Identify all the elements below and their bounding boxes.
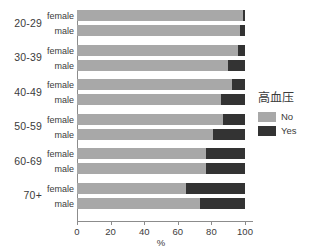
bar-row — [77, 163, 245, 174]
row-label-40-49-female: female — [32, 80, 74, 90]
row-label-60-69-male: male — [32, 164, 74, 174]
legend-label-yes: Yes — [281, 125, 297, 136]
legend-item-no[interactable]: No — [258, 111, 297, 122]
row-label-wrap: male — [30, 95, 74, 106]
bar-segment-no — [77, 79, 232, 90]
x-tick — [77, 221, 78, 225]
bar-row — [77, 183, 245, 194]
stacked-bar-chart: 20-29femalemale30-39femalemale40-49femal… — [0, 0, 312, 250]
bar-row — [77, 25, 245, 36]
legend-title: 高血压 — [258, 88, 297, 105]
bar-segment-yes — [213, 129, 245, 140]
x-tick — [144, 221, 145, 225]
bar-row — [77, 148, 245, 159]
bar-segment-no — [77, 148, 206, 159]
x-tick-label: 100 — [230, 226, 260, 237]
bar-row — [77, 45, 245, 56]
bar-segment-no — [77, 94, 221, 105]
x-axis-title: % — [77, 237, 245, 248]
bar-segment-yes — [240, 25, 245, 36]
legend-swatch-yes-icon — [258, 126, 276, 136]
row-label-20-29-male: male — [32, 26, 74, 36]
row-label-40-49-male: male — [32, 95, 74, 105]
x-tick-label: 80 — [196, 226, 226, 237]
x-tick-label: 20 — [96, 226, 126, 237]
bar-segment-no — [77, 163, 206, 174]
bar-row — [77, 79, 245, 90]
bar-segment-no — [77, 45, 238, 56]
row-label-30-39-female: female — [32, 46, 74, 56]
bar-row — [77, 60, 245, 71]
bar-row — [77, 10, 245, 21]
x-tick-label: 0 — [62, 226, 92, 237]
row-label-wrap: male — [30, 26, 74, 37]
bar-row — [77, 94, 245, 105]
row-label-60-69-female: female — [32, 149, 74, 159]
bar-segment-yes — [186, 183, 245, 194]
row-label-wrap: female — [30, 46, 74, 57]
row-label-70+-female: female — [32, 184, 74, 194]
bar-row — [77, 198, 245, 209]
row-label-50-59-female: female — [32, 115, 74, 125]
row-label-wrap: male — [30, 61, 74, 72]
row-label-wrap: male — [30, 164, 74, 175]
bar-segment-no — [77, 129, 213, 140]
row-label-wrap: male — [30, 130, 74, 141]
bar-segment-no — [77, 114, 223, 125]
bar-segment-yes — [200, 198, 245, 209]
bar-segment-yes — [206, 148, 245, 159]
row-label-20-29-female: female — [32, 11, 74, 21]
row-label-wrap: female — [30, 115, 74, 126]
row-label-wrap: female — [30, 11, 74, 22]
bar-segment-no — [77, 10, 243, 21]
x-axis-line — [77, 221, 253, 222]
row-label-wrap: female — [30, 149, 74, 160]
plot-area — [77, 10, 245, 221]
bar-segment-yes — [206, 163, 245, 174]
bar-segment-yes — [232, 79, 245, 90]
legend: 高血压 No Yes — [258, 88, 297, 139]
x-tick — [111, 221, 112, 225]
legend-swatch-no-icon — [258, 112, 276, 122]
bar-segment-no — [77, 60, 228, 71]
row-label-50-59-male: male — [32, 130, 74, 140]
x-tick-label: 60 — [163, 226, 193, 237]
bar-segment-no — [77, 25, 240, 36]
x-tick-label: 40 — [129, 226, 159, 237]
row-label-70+-male: male — [32, 199, 74, 209]
bar-segment-no — [77, 183, 186, 194]
legend-item-yes[interactable]: Yes — [258, 125, 297, 136]
bar-segment-yes — [228, 60, 245, 71]
x-tick — [245, 221, 246, 225]
bar-row — [77, 114, 245, 125]
row-label-wrap: male — [30, 199, 74, 210]
row-label-30-39-male: male — [32, 61, 74, 71]
x-tick — [211, 221, 212, 225]
bar-row — [77, 129, 245, 140]
bar-segment-yes — [238, 45, 245, 56]
legend-label-no: No — [281, 111, 293, 122]
bar-segment-yes — [223, 114, 245, 125]
bar-segment-no — [77, 198, 200, 209]
bar-segment-yes — [243, 10, 245, 21]
x-tick — [178, 221, 179, 225]
row-label-wrap: female — [30, 80, 74, 91]
row-label-wrap: female — [30, 184, 74, 195]
bar-segment-yes — [221, 94, 245, 105]
